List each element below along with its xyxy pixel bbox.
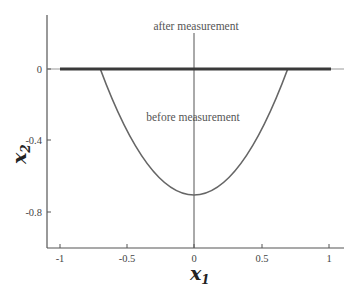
y-tick-label: -0.8 bbox=[25, 207, 42, 218]
x-tick-label: -1 bbox=[56, 253, 65, 264]
x-tick-label: -0.5 bbox=[119, 253, 136, 264]
after-measurement-label: after measurement bbox=[153, 20, 239, 32]
x-tick-label: 1 bbox=[326, 253, 331, 264]
chart: 0 -0.4 -0.8 -1 -0.5 0 0.5 1 after measur… bbox=[0, 0, 356, 292]
x-tick-label: 0.5 bbox=[255, 253, 268, 264]
y-tick-label: 0 bbox=[37, 64, 42, 75]
y-axis-title: x2 bbox=[8, 144, 33, 165]
before-measurement-label: before measurement bbox=[146, 111, 240, 123]
x-axis-title: x1 bbox=[189, 262, 210, 287]
